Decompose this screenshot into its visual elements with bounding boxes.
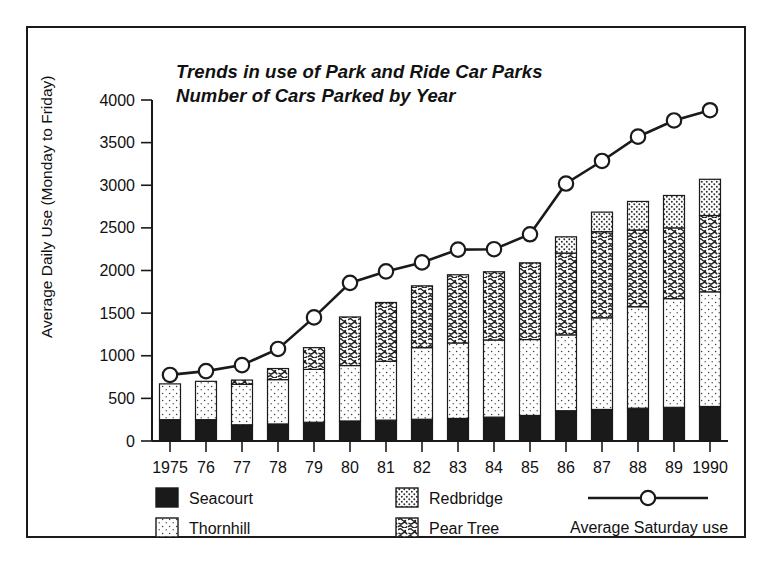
bar-segment-thornhill [592, 318, 613, 410]
bar-stack [448, 275, 469, 441]
figure-border: Trends in use of Park and Ride Car Parks… [26, 26, 746, 538]
bar-segment-pear-tree [700, 216, 721, 292]
saturday-use-marker [271, 342, 285, 356]
x-tick-label: 89 [665, 459, 683, 476]
bar-segment-pear-tree [664, 228, 685, 299]
x-tick-label: 77 [233, 459, 251, 476]
saturday-use-marker [451, 242, 465, 256]
bar-stack [412, 286, 433, 441]
bar-segment-pear-tree [628, 230, 649, 307]
legend-swatch-redbridge [396, 488, 418, 507]
bar-segment-thornhill [160, 384, 181, 420]
x-tick-label: 88 [629, 459, 647, 476]
bar-segment-pear-tree [556, 253, 577, 335]
legend-item[interactable]: Thornhill [156, 518, 250, 537]
bar-segment-pear-tree [484, 272, 505, 340]
bar-segment-pear-tree [232, 380, 253, 384]
x-tick-label: 1990 [692, 459, 728, 476]
x-tick-label: 76 [197, 459, 215, 476]
bar-segment-thornhill [268, 380, 289, 424]
bar-segment-seacourt [592, 409, 613, 441]
bar-segment-pear-tree [592, 232, 613, 318]
bar-segment-seacourt [664, 407, 685, 441]
y-tick-label: 500 [108, 390, 135, 407]
bar-segment-seacourt [232, 425, 253, 441]
y-tick-label: 0 [126, 433, 135, 450]
y-axis-title: Average Daily Use (Monday to Friday) [38, 76, 55, 338]
chart-title: Trends in use of Park and Ride Car Parks [176, 61, 543, 82]
legend-label: Redbridge [429, 490, 503, 507]
x-tick-label: 80 [341, 459, 359, 476]
saturday-use-marker [343, 276, 357, 290]
bar-segment-redbridge [556, 237, 577, 253]
legend-label: Average Saturday use [570, 519, 728, 536]
bar-segment-pear-tree [376, 302, 397, 361]
chart-subtitle: Number of Cars Parked by Year [176, 85, 457, 106]
saturday-use-marker [235, 358, 249, 372]
bar-segment-seacourt [484, 417, 505, 441]
legend-label: Thornhill [189, 520, 250, 537]
saturday-use-marker [379, 264, 393, 278]
bar-segment-thornhill [376, 361, 397, 420]
bar-segment-seacourt [520, 415, 541, 441]
saturday-use-marker [307, 310, 321, 324]
legend-item[interactable]: Redbridge [396, 488, 503, 507]
bar-segment-seacourt [304, 422, 325, 441]
saturday-use-marker [487, 242, 501, 256]
x-axis-ticks: 197576777879808182838485868788891990 [152, 441, 728, 476]
y-tick-label: 3500 [99, 134, 135, 151]
legend-item[interactable]: Seacourt [156, 488, 254, 507]
bar-segment-thornhill [664, 299, 685, 408]
bar-stack [340, 317, 361, 441]
bar-stack [628, 201, 649, 441]
saturday-use-marker [667, 113, 681, 127]
saturday-use-marker [199, 364, 213, 378]
bar-stack [160, 384, 181, 441]
bar-segment-pear-tree [304, 348, 325, 370]
x-tick-label: 79 [305, 459, 323, 476]
bar-segment-thornhill [232, 384, 253, 424]
legend-item[interactable]: Average Saturday use [570, 491, 728, 536]
bar-segment-seacourt [556, 411, 577, 441]
bar-stack [484, 272, 505, 441]
saturday-use-marker [631, 129, 645, 143]
bar-segment-seacourt [376, 420, 397, 441]
bar-segment-seacourt [700, 406, 721, 441]
bar-segment-redbridge [700, 179, 721, 215]
bar-stack [592, 212, 613, 441]
bar-segment-thornhill [556, 335, 577, 411]
saturday-use-marker [415, 255, 429, 269]
y-tick-label: 4000 [99, 92, 135, 109]
bar-segment-pear-tree [448, 275, 469, 343]
x-tick-label: 83 [449, 459, 467, 476]
x-tick-label: 1975 [152, 459, 188, 476]
y-tick-label: 2500 [99, 219, 135, 236]
bar-segment-thornhill [412, 348, 433, 420]
bar-stack [556, 237, 577, 441]
bar-segment-thornhill [700, 292, 721, 407]
legend-item[interactable]: Pear Tree [396, 518, 499, 537]
bar-segment-seacourt [448, 418, 469, 441]
saturday-use-marker [703, 103, 717, 117]
legend-label: Seacourt [189, 490, 254, 507]
chart-legend: SeacourtThornhillRedbridgePear TreeAvera… [156, 488, 728, 537]
saturday-use-marker [163, 368, 177, 382]
legend-swatch-thornhill [156, 518, 178, 537]
bar-segment-redbridge [664, 195, 685, 227]
bar-segment-thornhill [304, 369, 325, 422]
y-tick-label: 2000 [99, 262, 135, 279]
bar-segment-seacourt [268, 424, 289, 441]
bar-segment-thornhill [484, 340, 505, 417]
x-tick-label: 78 [269, 459, 287, 476]
y-tick-label: 3000 [99, 177, 135, 194]
bar-segment-seacourt [412, 419, 433, 441]
bar-segment-pear-tree [412, 286, 433, 348]
bar-segment-thornhill [520, 340, 541, 416]
bar-segment-pear-tree [340, 317, 361, 366]
bar-segment-pear-tree [520, 263, 541, 340]
saturday-use-marker [595, 154, 609, 168]
x-tick-label: 85 [521, 459, 539, 476]
bar-segment-redbridge [628, 201, 649, 230]
legend-label: Pear Tree [429, 520, 499, 537]
legend-swatch-pear-tree [396, 518, 418, 537]
